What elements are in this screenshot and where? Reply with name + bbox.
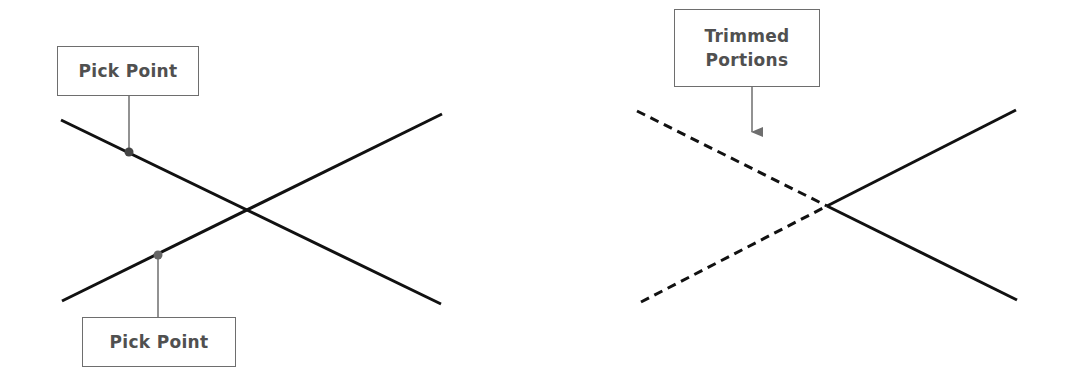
after-trim-group (637, 87, 1017, 302)
pick-point-bottom-text: Pick Point (110, 332, 209, 352)
trimmed-portion-a (637, 111, 827, 206)
pick-point-label-top: Pick Point (57, 46, 199, 96)
trimmed-label-line1: Trimmed (704, 24, 789, 48)
pick-point-bottom-marker (154, 251, 163, 260)
trimmed-portion-b (641, 206, 827, 302)
line-b (62, 114, 442, 301)
trim-diagram: Pick Point Pick Point Trimmed Portions (0, 0, 1065, 390)
kept-segment-b (827, 206, 1017, 300)
pick-point-top-text: Pick Point (79, 61, 178, 81)
kept-segment-a (827, 110, 1016, 206)
line-a (61, 120, 441, 304)
pick-point-top-marker (125, 148, 134, 157)
trimmed-label-line2: Portions (706, 48, 789, 72)
before-trim-group (61, 96, 442, 317)
trimmed-portions-label: Trimmed Portions (674, 9, 820, 87)
pick-point-label-bottom: Pick Point (82, 317, 236, 367)
